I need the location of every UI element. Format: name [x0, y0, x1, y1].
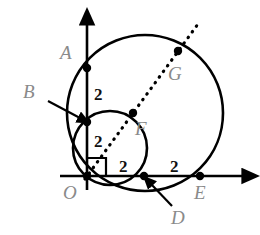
large-circle [67, 35, 223, 191]
point-dot-o [83, 172, 91, 180]
leader-arrow-to-b [48, 101, 80, 118]
point-label-a: A [60, 43, 72, 62]
point-label-d: D [171, 208, 185, 227]
segment-length-od: 2 [119, 158, 128, 175]
point-label-e: E [194, 183, 206, 202]
geometry-canvas [0, 0, 260, 235]
point-dot-f [129, 109, 137, 117]
segment-length-ab: 2 [94, 86, 103, 103]
segment-length-bo: 2 [94, 133, 103, 150]
point-label-o: O [63, 183, 77, 202]
geometry-figure: A B F G O D E 2 2 2 2 [0, 0, 260, 235]
point-label-b: B [23, 82, 35, 101]
point-dot-g [174, 47, 182, 55]
point-dot-a [83, 64, 91, 72]
point-label-f: F [135, 119, 147, 138]
point-dot-d [140, 172, 148, 180]
point-dot-e [196, 172, 204, 180]
point-label-g: G [168, 64, 182, 83]
segment-length-de: 2 [170, 158, 179, 175]
point-dot-b [83, 118, 91, 126]
